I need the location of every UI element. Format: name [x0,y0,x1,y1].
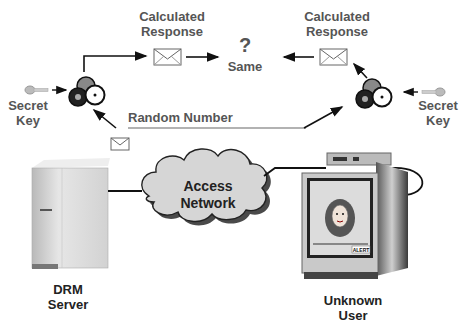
same-label: Same [222,59,268,74]
label-line: DRM [40,282,96,297]
label-line: Network [168,195,248,212]
label-line: Secret [4,98,52,113]
label-line: Calculated [132,9,212,24]
drm-server-icon [32,158,110,269]
access-network-label: Access Network [168,178,248,212]
question-mark-icon: ? [230,35,260,55]
label-line: Response [132,24,212,39]
label-line: Calculated [297,9,377,24]
left-calculated-response-label: Calculated Response [132,9,212,39]
envelope-icon-random [111,138,129,150]
label-line: Secret [414,98,462,113]
key-icon-left [25,86,48,94]
algorithm-discs-icon-left [69,77,105,106]
left-secret-key-label: Secret Key [4,98,52,128]
tv-alert-badge: ALERT [353,247,370,253]
label-line: Key [414,113,462,128]
left-response-arrow [84,56,218,72]
key-icon-right [422,88,445,96]
random-number-label: Random Number [128,110,233,125]
algorithm-discs-icon-right [356,79,392,108]
label-line: Unknown [318,293,388,308]
envelope-icon-right-response [320,49,347,65]
right-secret-key-label: Secret Key [414,98,462,128]
tv-icon: ALERT [302,153,422,279]
envelope-icon-left-response [154,49,181,65]
drm-server-label: DRM Server [40,282,96,312]
right-calculated-response-label: Calculated Response [297,9,377,39]
unknown-user-label: Unknown User [318,293,388,323]
label-line: Response [297,24,377,39]
label-line: Key [4,113,52,128]
label-line: Server [40,297,96,312]
label-line: Access [168,178,248,195]
label-line: User [318,308,388,323]
